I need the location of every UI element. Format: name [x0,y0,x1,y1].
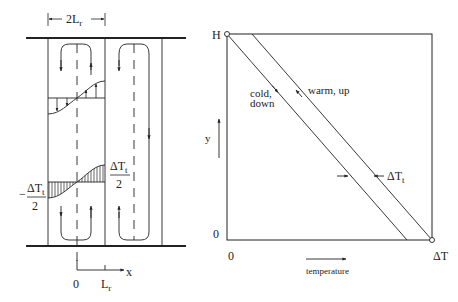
upper-dT-label: ΔTt 2 [110,159,130,191]
plot-frame [227,34,432,240]
warm-label: warm, up [308,84,350,96]
x-left-label: 0 [228,249,234,263]
temperature-profile [48,165,105,198]
bottom-right-point [430,238,435,243]
cold-label-line2: down [250,97,275,109]
gap-label: ΔTt [387,169,405,185]
svg-text:2: 2 [32,199,38,213]
svg-text:−: − [19,187,26,201]
temperature-axis-label: temperature [306,266,349,276]
diagram-canvas: 2Lr [0,0,458,302]
cold-down-line [227,34,407,240]
top-left-point [225,32,230,37]
x-right-label: ΔT [433,249,449,263]
x-axis: x 0 Lr [73,260,132,293]
right-panel-temperature-plot: ΔTt cold, down warm, up H 0 0 ΔT y tempe… [205,28,449,276]
width-label: 2Lr [66,12,82,28]
svg-text:0: 0 [73,277,79,291]
cell1-top-flow [61,44,91,70]
velocity-profile [48,81,105,114]
y-top-label: H [212,28,221,42]
svg-text:ΔTt: ΔTt [110,159,128,175]
svg-text:x: x [126,265,132,279]
svg-text:Lr: Lr [101,277,111,293]
y-bottom-label: 0 [213,227,219,241]
svg-text:2: 2 [116,177,122,191]
lower-dT-label: − ΔTt 2 [19,181,46,213]
left-panel-convection-cells: 2Lr [19,12,186,293]
warm-up-line [252,34,432,240]
width-dimension: 2Lr [48,12,105,28]
svg-text:ΔTt: ΔTt [27,181,45,197]
cell1-bottom-flow [61,210,91,240]
y-axis-label: y [205,132,211,144]
